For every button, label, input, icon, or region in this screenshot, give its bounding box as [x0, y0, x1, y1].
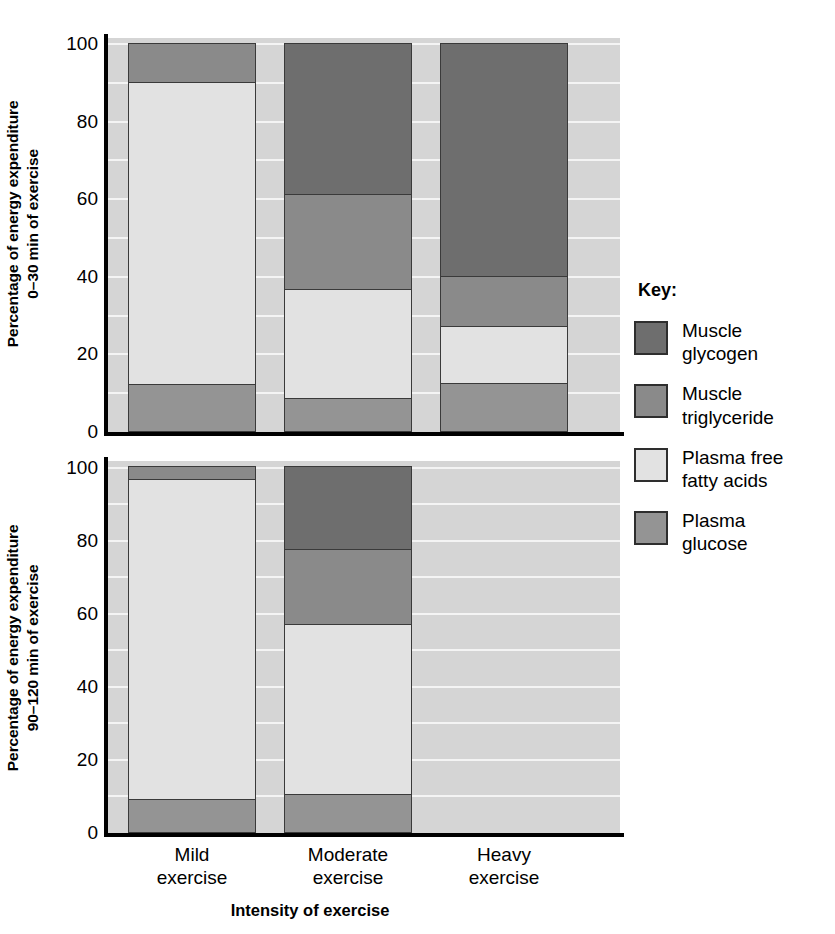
bar-mild-exercise[interactable] — [128, 468, 256, 834]
y-axis-title-top-line2: 0–30 min of exercise — [23, 101, 43, 348]
legend-item-plasma[interactable]: Plasmaglucose — [634, 509, 834, 555]
chart-panel-top: Percentage of energy expenditure 0–30 mi… — [0, 0, 620, 448]
y-tick-label: 20 — [77, 343, 98, 365]
legend-swatch — [634, 321, 668, 355]
legend-item-muscle[interactable]: Muscleglycogen — [634, 319, 834, 365]
bar-moderate-exercise[interactable] — [284, 468, 412, 834]
x-axis-line-top — [104, 432, 624, 436]
plot-area-top — [108, 38, 620, 432]
y-axis-title-top: Percentage of energy expenditure 0–30 mi… — [0, 0, 46, 448]
y-tick-label: 0 — [87, 822, 98, 844]
bar-segment-plasma-glucose[interactable] — [128, 799, 256, 833]
x-axis-line-bottom — [104, 833, 624, 837]
legend-label-line2: triglyceride — [682, 406, 774, 429]
plot-area-bottom — [108, 461, 620, 833]
bar-segment-plasma-free-fatty-acids[interactable] — [440, 326, 568, 384]
y-tick-label: 20 — [77, 749, 98, 771]
bar-segment-muscle-glycogen[interactable] — [284, 466, 412, 550]
x-tick-label-line2: exercise — [258, 866, 438, 889]
y-tick-label: 100 — [66, 457, 98, 479]
bar-segment-muscle-triglyceride[interactable] — [128, 43, 256, 83]
y-tick-label: 40 — [77, 266, 98, 288]
x-tick-label-moderate: Moderateexercise — [258, 843, 438, 889]
y-tick-label: 60 — [77, 603, 98, 625]
legend-label-line2: glucose — [682, 532, 748, 555]
y-axis-line-bottom — [104, 457, 108, 837]
bar-segment-plasma-glucose[interactable] — [284, 398, 412, 432]
bar-segment-muscle-glycogen[interactable] — [284, 43, 412, 196]
y-tick-label: 80 — [77, 530, 98, 552]
legend-label: Muscleglycogen — [682, 319, 758, 365]
legend-label-line2: glycogen — [682, 342, 758, 365]
y-tick-label: 80 — [77, 111, 98, 133]
legend-label-line1: Muscle — [682, 319, 758, 342]
x-tick-label-mild: Mildexercise — [102, 843, 282, 889]
x-tick-label-line2: exercise — [102, 866, 282, 889]
stacked-bar-chart-figure: Percentage of energy expenditure 0–30 mi… — [0, 0, 835, 934]
y-tick-label: 100 — [66, 33, 98, 55]
legend-items: MuscleglycogenMuscletriglyceridePlasma f… — [634, 319, 834, 555]
legend-swatch — [634, 384, 668, 418]
x-tick-label-line2: exercise — [414, 866, 594, 889]
bar-segment-muscle-glycogen[interactable] — [440, 43, 568, 277]
x-tick-label-heavy: Heavyexercise — [414, 843, 594, 889]
y-axis-title-bottom: Percentage of energy expenditure 90–120 … — [0, 448, 46, 848]
legend-item-plasma-free[interactable]: Plasma freefatty acids — [634, 446, 834, 492]
bar-segment-muscle-triglyceride[interactable] — [440, 275, 568, 327]
legend-label-line1: Muscle — [682, 382, 774, 405]
legend-item-muscle[interactable]: Muscletriglyceride — [634, 382, 834, 428]
bar-segment-muscle-triglyceride[interactable] — [284, 548, 412, 624]
x-axis-title: Intensity of exercise — [0, 901, 620, 920]
legend-label-line1: Plasma — [682, 509, 748, 532]
chart-panel-bottom: Percentage of energy expenditure 90–120 … — [0, 448, 620, 848]
x-tick-label-line1: Heavy — [414, 843, 594, 866]
bar-segment-plasma-free-fatty-acids[interactable] — [284, 623, 412, 794]
bar-moderate-exercise[interactable] — [284, 44, 412, 432]
y-tick-label: 40 — [77, 676, 98, 698]
y-axis-title-top-line1: Percentage of energy expenditure — [3, 101, 23, 348]
bar-segment-plasma-glucose[interactable] — [128, 384, 256, 432]
legend-label: Plasma freefatty acids — [682, 446, 783, 492]
y-tick-label: 0 — [87, 421, 98, 443]
y-axis-title-bottom-line1: Percentage of energy expenditure — [3, 525, 23, 772]
legend-label-line1: Plasma free — [682, 446, 783, 469]
legend-swatch — [634, 448, 668, 482]
y-axis-line-top — [104, 34, 108, 436]
legend-label-line2: fatty acids — [682, 469, 783, 492]
bar-segment-muscle-triglyceride[interactable] — [284, 194, 412, 291]
x-tick-label-line1: Mild — [102, 843, 282, 866]
bar-mild-exercise[interactable] — [128, 44, 256, 432]
y-axis-title-bottom-line2: 90–120 min of exercise — [23, 525, 43, 772]
y-axis-tick-labels-top: 020406080100 — [48, 38, 104, 432]
legend-title: Key: — [638, 280, 834, 301]
bar-segment-plasma-free-fatty-acids[interactable] — [128, 479, 256, 800]
y-axis-tick-labels-bottom: 020406080100 — [48, 461, 104, 833]
bar-segment-plasma-free-fatty-acids[interactable] — [128, 81, 256, 385]
x-tick-label-line1: Moderate — [258, 843, 438, 866]
y-tick-label: 60 — [77, 188, 98, 210]
bar-heavy-exercise[interactable] — [440, 44, 568, 432]
legend-label: Muscletriglyceride — [682, 382, 774, 428]
legend: Key: MuscleglycogenMuscletriglyceridePla… — [634, 280, 834, 572]
bar-segment-plasma-glucose[interactable] — [440, 382, 568, 432]
legend-swatch — [634, 511, 668, 545]
legend-label: Plasmaglucose — [682, 509, 748, 555]
bar-segment-muscle-triglyceride[interactable] — [128, 466, 256, 480]
bar-segment-plasma-glucose[interactable] — [284, 793, 412, 833]
bar-segment-plasma-free-fatty-acids[interactable] — [284, 289, 412, 399]
